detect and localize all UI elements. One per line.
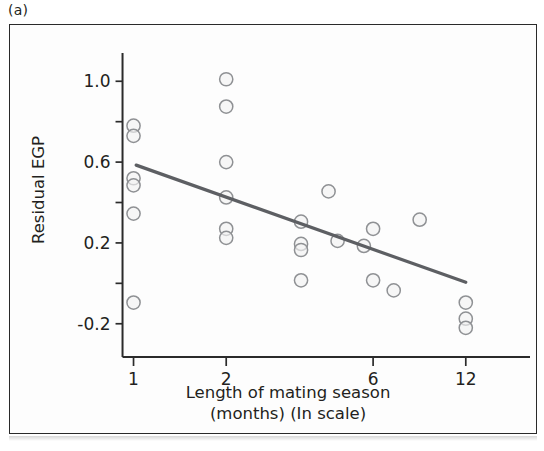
y-tick-label: -0.2: [77, 314, 110, 334]
data-point: [127, 296, 140, 309]
data-point: [220, 155, 233, 168]
data-point: [220, 73, 233, 86]
data-point: [127, 129, 140, 142]
scatter-chart: -0.20.20.61.0 12612 Residual EGP Length …: [0, 0, 544, 451]
y-tick-label: 1.0: [83, 71, 110, 91]
data-point: [459, 296, 472, 309]
figure-bottom-shadow: [9, 436, 537, 441]
axis-tick-marks: [116, 81, 466, 366]
figure-root: (a) -0.20.20.61.0 12612 Residual EGP Len…: [0, 0, 544, 451]
data-point: [387, 284, 400, 297]
y-axis-title: Residual EGP: [29, 136, 48, 244]
axis-lines: [123, 53, 530, 357]
chart-svg: -0.20.20.61.0 12612 Residual EGP Length …: [0, 0, 544, 451]
data-point: [220, 231, 233, 244]
y-tick-label: 0.2: [83, 233, 110, 253]
data-points: [127, 73, 472, 335]
data-point: [294, 274, 307, 287]
x-tick-label: 12: [455, 369, 477, 389]
x-axis-title-line2: (months) (In scale): [210, 404, 366, 423]
data-point: [459, 321, 472, 334]
y-axis-tick-labels: -0.20.20.61.0: [77, 71, 110, 333]
data-point: [127, 207, 140, 220]
data-point: [220, 100, 233, 113]
x-tick-label: 1: [128, 369, 139, 389]
data-point: [322, 185, 335, 198]
x-axis-title-line1: Length of mating season: [186, 383, 391, 402]
y-tick-label: 0.6: [83, 152, 110, 172]
data-point: [367, 222, 380, 235]
data-point: [367, 274, 380, 287]
data-point: [294, 243, 307, 256]
data-point: [127, 179, 140, 192]
data-point: [413, 213, 426, 226]
